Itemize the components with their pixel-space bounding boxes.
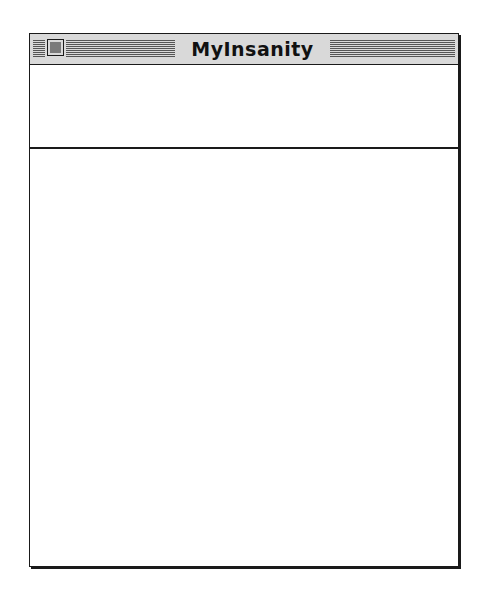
header-pane <box>30 65 458 149</box>
close-box-fill <box>50 42 61 53</box>
content-pane[interactable] <box>30 149 458 566</box>
title-bar[interactable]: MyInsanity <box>30 34 458 65</box>
window-title: MyInsanity <box>175 36 330 62</box>
close-box-icon[interactable] <box>47 39 64 56</box>
app-window: MyInsanity <box>29 33 459 567</box>
title-bar-stripes-right <box>330 40 455 57</box>
